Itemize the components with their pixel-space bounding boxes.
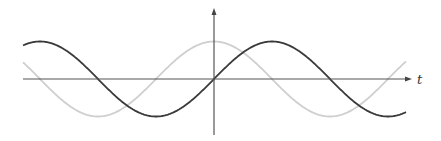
x-axis-arrowhead: [405, 77, 412, 82]
x-axis-label: t: [417, 72, 423, 87]
sine-cosine-plot: t: [0, 0, 441, 141]
y-axis-arrowhead: [212, 8, 217, 15]
